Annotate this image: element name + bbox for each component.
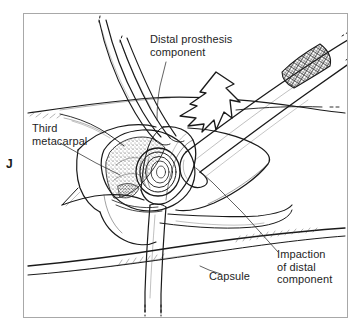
figure-page: J [0,0,361,328]
label-distal-prosthesis-component: Distal prosthesis component [150,33,232,58]
leader-lines [60,62,278,274]
label-third-metacarpal: Third metacarpal [32,122,87,147]
impaction-arrow [180,72,240,132]
right-edge-markers [236,107,340,110]
label-impaction-of-distal-component: Impaction of distal component [277,248,332,286]
label-capsule: Capsule [209,270,250,283]
leader-distal-prosthesis [157,62,166,120]
